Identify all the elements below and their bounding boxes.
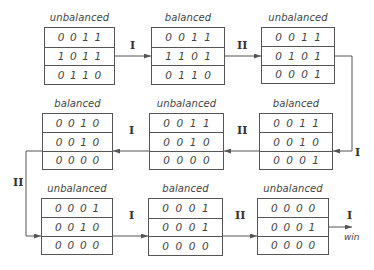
state-label: balanced: [259, 98, 333, 109]
grid-cell: 0: [299, 68, 311, 80]
grid-cell: 1: [312, 68, 324, 80]
grid-cell: 0: [299, 50, 311, 62]
grid-cell: 1: [199, 221, 211, 233]
state-grid: 001000100000: [42, 113, 113, 170]
grid-cell: 1: [297, 136, 309, 148]
state-grid: 000100100000: [41, 198, 113, 255]
grid-cell: 0: [77, 239, 89, 251]
grid-cell: 0: [271, 136, 283, 148]
grid-row: 0001: [262, 65, 334, 83]
grid-cell: 0: [174, 154, 186, 166]
grid-cell: 1: [80, 69, 92, 81]
grid-cell: 0: [173, 240, 185, 252]
grid-cell: 0: [53, 117, 65, 129]
grid-cell: 1: [200, 117, 212, 129]
grid-row: 0010: [43, 132, 112, 150]
state-box: balanced000100010000: [148, 198, 223, 256]
grid-row: 0000: [42, 236, 112, 254]
grid-cell: 0: [293, 221, 305, 233]
win-label: win: [344, 232, 360, 242]
grid-cell: 1: [189, 69, 201, 81]
grid-cell: 1: [176, 50, 188, 62]
arrow-3-6: [333, 56, 352, 151]
grid-row: 0011: [260, 114, 332, 132]
grid-cell: 1: [199, 202, 211, 214]
grid-cell: 0: [55, 31, 67, 43]
state-box: unbalanced001101010001: [261, 27, 335, 84]
grid-cell: 1: [297, 117, 309, 129]
grid-cell: 0: [90, 221, 102, 233]
grid-cell: 0: [53, 136, 65, 148]
operation-label: I: [355, 146, 360, 159]
grid-row: 0010: [43, 114, 112, 132]
grid-cell: 1: [176, 69, 188, 81]
grid-cell: 0: [281, 221, 293, 233]
grid-cell: 1: [187, 117, 199, 129]
grid-cell: 1: [310, 154, 322, 166]
grid-cell: 0: [77, 202, 89, 214]
grid-row: 0011: [150, 114, 223, 132]
state-grid: 001110110110: [44, 27, 115, 85]
grid-cell: 0: [92, 69, 104, 81]
grid-row: 0011: [45, 28, 114, 47]
grid-cell: 0: [65, 154, 77, 166]
grid-cell: 1: [202, 50, 214, 62]
state-label: balanced: [148, 183, 223, 194]
state-grid: 000100010000: [148, 198, 223, 256]
grid-cell: 1: [55, 50, 67, 62]
grid-row: 0101: [262, 46, 334, 64]
operation-label: I: [129, 124, 134, 137]
grid-cell: 1: [163, 50, 175, 62]
grid-cell: 0: [199, 240, 211, 252]
grid-cell: 1: [310, 117, 322, 129]
grid-cell: 0: [67, 50, 79, 62]
grid-row: 0011: [152, 28, 224, 47]
state-grid: 001111010110: [151, 27, 225, 85]
state-label: unbalanced: [257, 183, 329, 194]
grid-cell: 1: [312, 31, 324, 43]
grid-cell: 0: [78, 154, 90, 166]
operation-label: I: [129, 209, 134, 222]
grid-cell: 0: [65, 221, 77, 233]
grid-row: 0001: [260, 151, 332, 169]
grid-cell: 1: [80, 31, 92, 43]
grid-cell: 1: [77, 221, 89, 233]
state-grid: 001100100001: [259, 113, 333, 170]
grid-cell: 1: [189, 31, 201, 43]
grid-cell: 0: [186, 221, 198, 233]
grid-cell: 0: [271, 117, 283, 129]
grid-cell: 0: [65, 136, 77, 148]
grid-cell: 0: [273, 68, 285, 80]
grid-cell: 0: [284, 136, 296, 148]
state-box: unbalanced001100100000: [149, 113, 224, 170]
operation-label: I: [347, 209, 352, 222]
state-box: balanced001000100000: [42, 113, 113, 170]
grid-cell: 1: [312, 50, 324, 62]
grid-cell: 0: [53, 154, 65, 166]
grid-cell: 0: [52, 221, 64, 233]
state-box: balanced001111010110: [151, 27, 225, 85]
grid-cell: 0: [173, 202, 185, 214]
grid-cell: 0: [187, 154, 199, 166]
operation-label: II: [237, 124, 247, 137]
grid-cell: 1: [299, 31, 311, 43]
state-box: unbalanced000100100000: [41, 198, 113, 255]
grid-cell: 0: [65, 239, 77, 251]
grid-cell: 0: [174, 117, 186, 129]
grid-cell: 0: [160, 202, 172, 214]
grid-cell: 0: [273, 31, 285, 43]
state-grid: 001100100000: [149, 113, 224, 170]
grid-row: 0000: [258, 199, 328, 217]
grid-cell: 0: [90, 239, 102, 251]
grid-cell: 0: [268, 202, 280, 214]
grid-cell: 0: [268, 221, 280, 233]
grid-cell: 1: [286, 50, 298, 62]
state-grid: 001101010001: [261, 27, 335, 84]
state-grid: 000000010000: [257, 198, 329, 255]
grid-row: 1101: [152, 47, 224, 66]
grid-cell: 0: [293, 202, 305, 214]
grid-cell: 1: [92, 31, 104, 43]
grid-cell: 1: [78, 136, 90, 148]
grid-cell: 1: [202, 31, 214, 43]
grid-cell: 0: [161, 117, 173, 129]
